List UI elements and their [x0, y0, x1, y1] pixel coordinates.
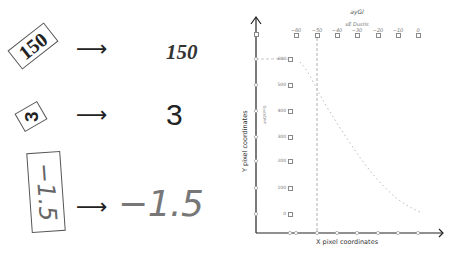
y-tick-marker	[288, 135, 293, 140]
side-label: anGRPFG	[262, 105, 267, 124]
y-tick-label: 600	[266, 56, 286, 61]
y-tick-label: 0	[266, 211, 286, 216]
y-tick-marker	[288, 83, 293, 88]
tick-marker	[355, 33, 360, 38]
tick-marker	[294, 33, 299, 38]
tick-marker	[335, 33, 340, 38]
tick-marker	[254, 32, 259, 37]
y-tick-label: 300	[266, 134, 286, 139]
x-axis-title: X pixel coordinates	[316, 238, 378, 246]
y-tick-label: 400	[266, 108, 286, 113]
y-tick-marker	[288, 186, 293, 191]
tick-marker	[396, 33, 401, 38]
chart-svg	[0, 0, 449, 255]
y-tick-label: 500	[266, 82, 286, 87]
y-axis-title: Y pixel coordinates	[241, 110, 249, 172]
y-tick-label: 100	[266, 185, 286, 190]
y-tick-marker	[288, 57, 293, 62]
chart-title: ayGl	[350, 8, 364, 15]
y-tick-marker	[288, 159, 293, 164]
tick-marker	[376, 33, 381, 38]
y-tick-marker	[288, 212, 293, 217]
tick-marker	[315, 33, 320, 38]
y-tick-label: 200	[266, 158, 286, 163]
tick-marker	[416, 33, 421, 38]
y-tick-marker	[288, 109, 293, 114]
